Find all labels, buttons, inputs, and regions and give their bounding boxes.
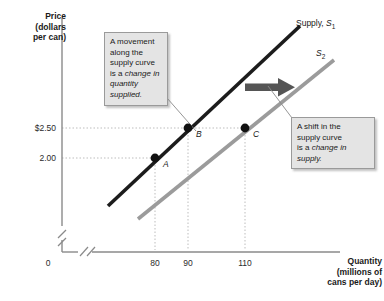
gridlines	[62, 128, 247, 250]
callout-movement-along-curve: A movement along the supply curve is a c…	[104, 32, 168, 106]
callout-shift-line-4: supply.	[297, 154, 369, 165]
y-break-mark-1	[58, 230, 66, 238]
y-tick-label-250: $2.50	[8, 123, 56, 133]
point-label-c: C	[253, 129, 259, 139]
x-axis-title-line-2: (millions of	[300, 267, 382, 278]
callout-movement-line-2: along the	[110, 48, 162, 59]
data-point-c	[241, 124, 250, 133]
x-axis-title: Quantity (millions of cans per day)	[300, 256, 382, 288]
callout-movement-line-5-italic: quantity	[110, 79, 138, 88]
y-axis-title-line-2: (dollars	[33, 22, 66, 33]
callout-movement-line-6-italic: supplied.	[110, 90, 142, 99]
supply-curve-figure: Price (dollars per can) Quantity (millio…	[0, 0, 384, 301]
callout-shift-line-4-italic: supply.	[297, 154, 322, 163]
point-label-b: B	[196, 129, 202, 139]
point-label-a: A	[163, 159, 169, 169]
callout-movement-line-1: A movement	[110, 37, 162, 48]
callout-movement-line-4-italic: change in	[125, 69, 160, 78]
callout-shift-in-curve: A shift in the supply curve is a change …	[291, 117, 375, 169]
callout-movement-line-6: supplied.	[110, 90, 162, 101]
callout-movement-line-3: supply curve	[110, 58, 162, 69]
supply-label-text: Supply,	[296, 18, 324, 28]
callout-shift-line-2: supply curve	[297, 133, 369, 144]
supply2-subscript: 2	[322, 53, 326, 60]
x-tick-label-0: 0	[33, 258, 63, 268]
callout-movement-line-5: quantity	[110, 79, 162, 90]
y-axis-title: Price (dollars per can)	[33, 11, 66, 43]
x-axis-title-line-3: cans per day)	[300, 277, 382, 288]
y-tick-label-200: 2.00	[8, 153, 56, 163]
supply-shift-arrow	[245, 78, 295, 97]
supply-curve-s2-label: S2	[316, 48, 325, 60]
callout-shift-line-1: A shift in the	[297, 122, 369, 133]
x-tick-label-90: 90	[173, 258, 203, 268]
callout-movement-line-4-plain: is a	[110, 69, 125, 78]
supply-curve-s1-label: Supply, S1	[296, 18, 335, 30]
callout-shift-line-3: is a change in	[297, 143, 369, 154]
data-point-a	[151, 154, 160, 163]
callout-movement-line-4: is a change in	[110, 69, 162, 80]
callout-shift-line-3-plain: is a	[297, 143, 312, 152]
x-tick-label-110: 110	[230, 258, 260, 268]
x-axis-title-line-1: Quantity	[300, 256, 382, 267]
x-tick-label-80: 80	[140, 258, 170, 268]
y-axis-title-line-3: per can)	[33, 32, 66, 43]
callout-shift-line-3-italic: change in	[312, 143, 347, 152]
x-break-mark-1	[80, 247, 88, 256]
supply-subscript: 1	[332, 23, 336, 30]
data-point-b	[184, 124, 193, 133]
y-axis-title-line-1: Price	[33, 11, 66, 22]
